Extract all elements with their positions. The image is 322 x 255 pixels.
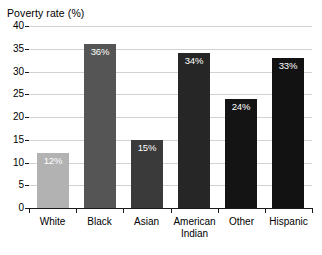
y-axis-tick-mark — [25, 117, 29, 118]
poverty-rate-bar-chart: Poverty rate (%) 12%36%15%34%24%33% 0510… — [0, 0, 322, 255]
bar: 24% — [225, 99, 257, 208]
gridline — [29, 140, 312, 141]
plot-area: 12%36%15%34%24%33% — [29, 26, 312, 208]
gridline — [29, 163, 312, 164]
x-axis-tick-mark — [76, 208, 77, 213]
bar-value-label: 33% — [272, 60, 304, 71]
bar-value-label: 36% — [84, 46, 116, 57]
x-axis-category-label-line: Indian — [165, 228, 224, 240]
x-axis-tick-mark — [312, 208, 313, 213]
bar-value-label: 12% — [37, 155, 69, 166]
bar: 33% — [272, 58, 304, 208]
y-axis-tick-mark — [25, 72, 29, 73]
y-axis-tick-mark — [25, 185, 29, 186]
gridline — [29, 26, 312, 27]
x-axis-tick-mark — [29, 208, 30, 213]
x-axis-category-label: Hispanic — [259, 216, 318, 228]
gridline — [29, 94, 312, 95]
gridline — [29, 49, 312, 50]
x-axis-tick-mark — [218, 208, 219, 213]
x-axis-tick-mark — [123, 208, 124, 213]
bar-value-label: 24% — [225, 101, 257, 112]
y-axis-tick-mark — [25, 94, 29, 95]
y-axis-tick-mark — [25, 26, 29, 27]
gridline — [29, 117, 312, 118]
gridline — [29, 72, 312, 73]
x-axis-tick-mark — [265, 208, 266, 213]
bar-value-label: 34% — [178, 55, 210, 66]
gridline — [29, 185, 312, 186]
bar-value-label: 15% — [131, 142, 163, 153]
x-axis-tick-mark — [171, 208, 172, 213]
y-axis-tick-mark — [25, 140, 29, 141]
y-axis-tick-mark — [25, 163, 29, 164]
bar: 36% — [84, 44, 116, 208]
bar: 34% — [178, 53, 210, 208]
x-axis-category-label-line: Hispanic — [259, 216, 318, 228]
y-axis-tick-mark — [25, 49, 29, 50]
bar: 12% — [37, 153, 69, 208]
chart-title: Poverty rate (%) — [7, 7, 84, 19]
bar: 15% — [131, 140, 163, 208]
y-axis-tick-marks — [0, 26, 29, 208]
